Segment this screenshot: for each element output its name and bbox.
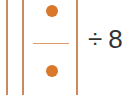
divide-operator: ÷ — [88, 26, 102, 52]
numerator-dot — [46, 5, 58, 17]
denominator-dot — [46, 65, 58, 77]
left-edge-bar — [6, 0, 8, 95]
divisor-number: 8 — [108, 26, 122, 52]
division-expression: ÷8 — [88, 26, 122, 52]
fraction-bar — [33, 43, 69, 44]
fraction-card[interactable] — [22, 0, 78, 95]
